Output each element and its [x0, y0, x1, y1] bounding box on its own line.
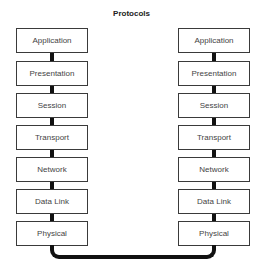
right-layer-session: Session	[178, 93, 250, 118]
right-layer-transport: Transport	[178, 125, 250, 150]
left-layer-application: Application	[16, 28, 88, 53]
right-layer-presentation: Presentation	[178, 61, 250, 86]
left-layer-physical: Physical	[16, 221, 88, 246]
left-link-connector	[50, 53, 54, 61]
physical-cable-connection	[50, 245, 216, 259]
left-layer-presentation: Presentation	[16, 61, 88, 86]
left-layer-data-link: Data Link	[16, 189, 88, 214]
left-layer-network: Network	[16, 157, 88, 182]
diagram-title: Protocols	[0, 9, 263, 18]
right-layer-physical: Physical	[178, 221, 250, 246]
right-layer-application: Application	[178, 28, 250, 53]
right-layer-data-link: Data Link	[178, 189, 250, 214]
left-layer-session: Session	[16, 93, 88, 118]
left-layer-transport: Transport	[16, 125, 88, 150]
right-layer-network: Network	[178, 157, 250, 182]
right-link-connector	[212, 53, 216, 61]
